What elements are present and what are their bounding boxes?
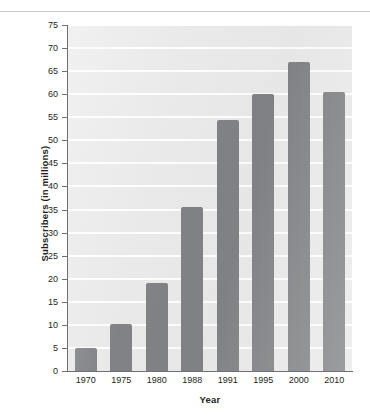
y-tick-mark [62, 233, 67, 234]
y-tick-mark [62, 117, 67, 118]
x-axis-line [67, 371, 353, 372]
y-tick-mark [62, 302, 67, 303]
x-tick-label-2010: 2010 [312, 376, 356, 385]
gridline [68, 47, 352, 49]
gridline [68, 25, 352, 26]
y-tick-mark [62, 348, 67, 349]
bar-2000 [288, 62, 310, 371]
y-tick-mark [62, 186, 67, 187]
y-tick-mark [62, 210, 67, 211]
bar-chart-figure: 051015202530354045505560657075 197019751… [0, 0, 370, 419]
y-tick-mark [62, 256, 67, 257]
y-axis-title: Subscribers (in millions) [39, 84, 50, 324]
y-tick-mark [62, 25, 67, 26]
top-divider-rule [0, 11, 370, 12]
y-tick-mark [62, 163, 67, 164]
bar-1980 [146, 283, 168, 371]
bar-1975 [110, 324, 132, 371]
y-tick-label: 65 [18, 67, 58, 76]
y-tick-mark [62, 325, 67, 326]
y-tick-mark [62, 48, 67, 49]
y-tick-label: 0 [18, 367, 58, 376]
y-tick-mark [62, 94, 67, 95]
y-tick-label: 70 [18, 44, 58, 53]
bar-1995 [252, 94, 274, 371]
bar-1970 [75, 348, 97, 371]
y-tick-label: 5 [18, 343, 58, 352]
y-tick-label: 75 [18, 21, 58, 30]
y-axis-line [67, 25, 68, 372]
y-tick-mark [62, 71, 67, 72]
x-axis-title: Year [68, 394, 352, 405]
bar-2010 [323, 92, 345, 371]
y-tick-mark [62, 140, 67, 141]
y-tick-mark [62, 279, 67, 280]
y-tick-mark [62, 371, 67, 372]
plot-area [68, 25, 352, 371]
bar-1991 [217, 120, 239, 371]
bar-1988 [181, 207, 203, 371]
